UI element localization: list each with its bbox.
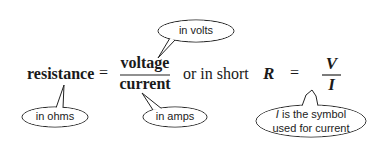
equals-sign: = <box>99 64 108 82</box>
callout-in-amps: in amps <box>143 110 207 122</box>
symbol-i: I <box>322 75 341 95</box>
callout-line2: used for current <box>272 122 349 134</box>
lhs-word-resistance: resistance <box>27 65 94 83</box>
callout-line1: is the symbol <box>279 108 346 120</box>
symbol-v: V <box>322 54 341 74</box>
callout-current-symbol: I is the symbol used for current <box>256 107 366 135</box>
symbol-r: R <box>263 64 274 84</box>
callout-in-ohms: in ohms <box>22 110 88 122</box>
short-equals-sign: = <box>290 64 299 82</box>
callout-in-volts: in volts <box>158 24 234 36</box>
numerator-voltage: voltage <box>118 54 172 72</box>
connector-text: or in short <box>183 65 249 83</box>
denominator-current: current <box>118 75 172 93</box>
